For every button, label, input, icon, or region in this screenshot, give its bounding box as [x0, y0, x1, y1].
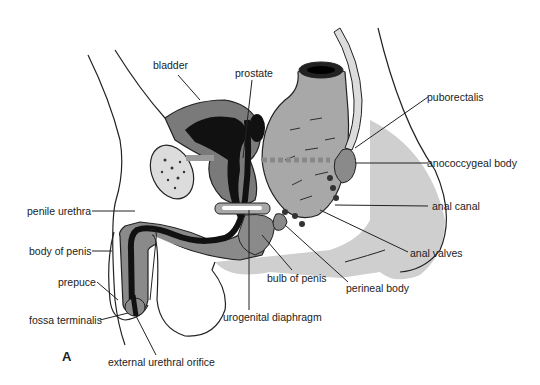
label-puborectalis: puborectalis [427, 91, 484, 103]
label-anal-canal: anal canal [432, 200, 480, 212]
rectum-lumen [307, 66, 335, 74]
urogenital-diaphragm-lumen [222, 206, 262, 210]
anatomy-diagram: bladder prostate puborectalis anococcyge… [0, 0, 540, 385]
label-penile-urethra: penile urethra [27, 205, 91, 217]
label-external-urethral-orifice: external urethral orifice [108, 356, 215, 368]
panel-letter: A [62, 349, 71, 364]
label-urogenital-diaphragm: urogenital diaphragm [223, 311, 322, 323]
perineal-body-shape [273, 214, 287, 231]
label-anal-valves: anal valves [410, 247, 463, 259]
label-perineal-body: perineal body [346, 282, 409, 294]
rectum [262, 66, 349, 218]
label-anococcygeal-body: anococcygeal body [427, 157, 517, 169]
label-fossa-terminalis: fossa terminalis [29, 314, 102, 326]
label-bladder: bladder [153, 59, 188, 71]
abdominal-wall-outer [88, 55, 125, 345]
seminal-vesicle [249, 114, 265, 142]
label-bulb-of-penis: bulb of penis [267, 272, 327, 284]
label-prepuce: prepuce [58, 276, 96, 288]
prostate-band [186, 155, 214, 161]
diagram-drawing [0, 0, 540, 385]
label-body-of-penis: body of penis [29, 245, 91, 257]
label-prostate: prostate [235, 67, 273, 79]
urethra-tip [133, 295, 136, 316]
